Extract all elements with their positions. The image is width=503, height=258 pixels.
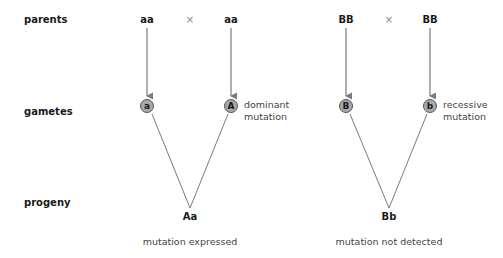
left-parent-2: aa: [224, 14, 238, 25]
left-note-line-1: dominant: [244, 99, 289, 111]
right-gamete-note: recessive mutation: [443, 99, 488, 123]
left-parent-1: aa: [140, 14, 154, 25]
left-gamete-note: dominant mutation: [244, 99, 289, 123]
left-gamete-1: a: [140, 99, 154, 113]
right-note-line-1: recessive: [443, 99, 488, 111]
left-gamete-2: A: [224, 99, 238, 113]
right-gamete-1: B: [339, 99, 353, 113]
right-parent-1: BB: [338, 14, 353, 25]
right-progeny: Bb: [382, 211, 397, 222]
right-note-line-2: mutation: [443, 111, 488, 123]
left-cross-symbol: ×: [186, 14, 194, 25]
right-parent-2: BB: [422, 14, 437, 25]
right-gamete-2: b: [423, 99, 437, 113]
row-label-gametes: gametes: [24, 106, 73, 117]
row-label-parents: parents: [24, 14, 67, 25]
connector-lines: [0, 0, 503, 258]
left-note-line-2: mutation: [244, 111, 289, 123]
right-outcome: mutation not detected: [336, 236, 443, 247]
row-label-progeny: progeny: [24, 197, 71, 208]
right-cross-symbol: ×: [385, 14, 393, 25]
left-progeny: Aa: [183, 211, 198, 222]
left-outcome: mutation expressed: [143, 236, 238, 247]
